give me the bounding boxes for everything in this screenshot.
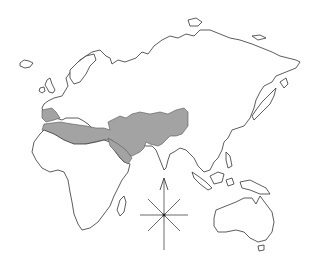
hokkaido	[280, 78, 288, 88]
tasmania	[258, 245, 264, 251]
novaya-zemlya	[188, 18, 202, 26]
map-container: Map of Eurasia, Africa and Australia wit…	[0, 0, 315, 267]
compass-rose	[140, 178, 188, 250]
australia	[214, 196, 274, 242]
borneo	[210, 172, 224, 184]
iceland	[20, 60, 33, 68]
world-map	[0, 0, 315, 267]
sulawesi	[226, 178, 234, 186]
sumatra	[192, 172, 212, 190]
ireland	[39, 87, 45, 93]
philippines	[226, 152, 232, 168]
severnaya-zemlya	[252, 35, 266, 40]
madagascar	[117, 196, 126, 216]
british-isles	[45, 78, 55, 93]
new-guinea	[240, 180, 270, 194]
